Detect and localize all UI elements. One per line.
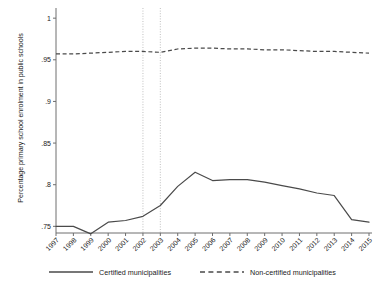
y-tick-label: .9 bbox=[45, 98, 51, 105]
series-line-non-certified bbox=[56, 48, 369, 54]
x-tick-label: 2010 bbox=[270, 236, 286, 252]
x-tick-label: 2001 bbox=[114, 236, 130, 252]
x-tick-label: 2003 bbox=[149, 236, 165, 252]
y-tick-label: .85 bbox=[41, 140, 51, 147]
chart-figure: Percentage primary school enrolment in p… bbox=[0, 0, 384, 285]
y-tick-label: .75 bbox=[41, 223, 51, 230]
x-tick-label: 2006 bbox=[201, 236, 217, 252]
x-tick-label: 2004 bbox=[166, 236, 182, 252]
x-tick-label: 1998 bbox=[62, 236, 78, 252]
x-tick-label: 2015 bbox=[357, 236, 373, 252]
y-tick-label: .8 bbox=[45, 181, 51, 188]
legend-label-certified: Certified municipalities bbox=[99, 268, 171, 277]
x-tick-label: 2007 bbox=[218, 236, 234, 252]
line-chart-plot: 1.95.9.85.8.7519971998199920002001200220… bbox=[0, 0, 384, 285]
y-tick-label: 1 bbox=[47, 15, 51, 22]
x-tick-label: 2012 bbox=[305, 236, 321, 252]
legend-entry-non-certified: Non-certified municipalities bbox=[199, 268, 336, 277]
series-line-certified bbox=[56, 172, 369, 234]
x-tick-label: 2008 bbox=[236, 236, 252, 252]
legend-swatch-solid bbox=[48, 268, 94, 276]
chart-legend: Certified municipalities Non-certified m… bbox=[0, 263, 384, 281]
x-tick-label: 2000 bbox=[96, 236, 112, 252]
y-tick-label: .95 bbox=[41, 56, 51, 63]
x-tick-label: 2014 bbox=[340, 236, 356, 252]
x-tick-label: 2011 bbox=[288, 236, 304, 252]
legend-entry-certified: Certified municipalities bbox=[48, 268, 171, 277]
x-tick-label: 2002 bbox=[131, 236, 147, 252]
x-tick-label: 2005 bbox=[183, 236, 199, 252]
x-tick-label: 1999 bbox=[79, 236, 95, 252]
x-tick-label: 2013 bbox=[322, 236, 338, 252]
x-tick-label: 1997 bbox=[44, 236, 60, 252]
legend-label-non-certified: Non-certified municipalities bbox=[250, 268, 336, 277]
x-tick-label: 2009 bbox=[253, 236, 269, 252]
legend-swatch-dashed bbox=[199, 268, 245, 276]
